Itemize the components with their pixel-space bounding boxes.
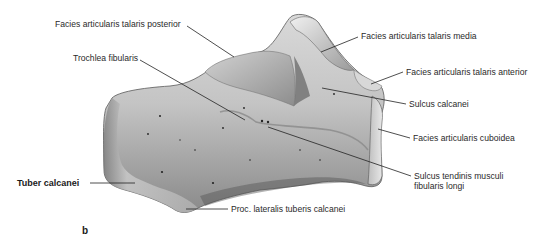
panel-label: b [82,225,88,236]
label-trochlea-fibularis: Trochlea fibularis [73,53,138,63]
calcaneus-bone [103,14,384,212]
anatomy-figure: Facies articularis talaris posterior Tro… [0,0,542,240]
label-sulcus-calcanei: Sulcus calcanei [409,99,469,109]
leader-talaris-posterior [187,26,234,57]
label-tuber-calcanei: Tuber calcanei [17,178,79,188]
label-sulcus-tendinis-line2: fibularis longi [414,181,464,191]
leader-cuboidea [378,129,410,138]
label-proc-lateralis-tuberis-calcanei: Proc. lateralis tuberis calcanei [231,204,345,214]
label-facies-articularis-talaris-anterior: Facies articularis talaris anterior [406,67,527,77]
label-facies-articularis-talaris-media: Facies articularis talaris media [361,31,477,41]
leader-talaris-anterior [371,72,403,84]
label-sulcus-tendinis-line1: Sulcus tendinis musculi [414,171,503,181]
label-facies-articularis-talaris-posterior: Facies articularis talaris posterior [55,19,181,29]
label-facies-articularis-cuboidea: Facies articularis cuboidea [413,133,515,143]
